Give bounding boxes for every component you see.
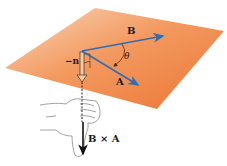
plane bbox=[5, 8, 224, 109]
cross-product-label: B × A bbox=[88, 134, 120, 144]
vector-a-label: A bbox=[116, 77, 124, 87]
vector-b-label: B bbox=[127, 26, 135, 36]
theta-label: θ bbox=[124, 52, 129, 61]
cross-product-diagram: B A θ −n B × A bbox=[0, 0, 227, 166]
negative-n-label: −n bbox=[65, 57, 79, 66]
right-hand-icon bbox=[40, 99, 100, 157]
